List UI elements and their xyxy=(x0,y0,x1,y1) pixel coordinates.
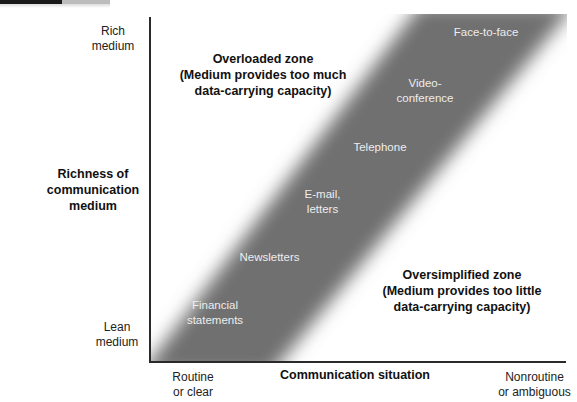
media-telephone: Telephone xyxy=(345,140,415,155)
x-axis-right-label: Nonroutine or ambiguous xyxy=(492,370,577,400)
media-financial-statements: Financial statements xyxy=(180,298,250,328)
media-videoconference: Video- conference xyxy=(385,76,465,106)
overloaded-zone-label: Overloaded zone (Medium provides too muc… xyxy=(168,51,358,99)
media-email-letters: E-mail, letters xyxy=(295,187,350,217)
y-axis-bottom-label: Lean medium xyxy=(92,320,142,350)
y-axis-line xyxy=(149,17,151,363)
media-newsletters: Newsletters xyxy=(232,250,307,265)
y-axis-top-label: Rich medium xyxy=(88,24,138,54)
x-axis-left-label: Routine or clear xyxy=(163,370,223,400)
media-face-to-face: Face-to-face xyxy=(436,25,536,40)
y-axis-title: Richness of communication medium xyxy=(38,166,148,214)
oversimplified-zone-label: Oversimplified zone (Medium provides too… xyxy=(362,267,562,315)
x-axis-line xyxy=(149,361,566,363)
x-axis-title: Communication situation xyxy=(265,367,445,383)
